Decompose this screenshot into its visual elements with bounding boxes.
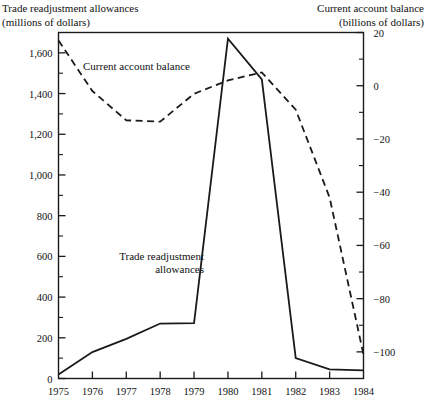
series-line-current-account-balance [59,40,364,354]
left-axis-tick-label: 200 [37,332,53,343]
left-axis-tick-label: 800 [37,210,53,221]
right-axis-tick-label: 0 [374,80,379,91]
left-axis-tick-label: 1,200 [29,129,53,140]
plot-frame-rect [59,33,364,379]
left-axis-tick-label: 1,000 [29,169,53,180]
x-axis-tick-label: 1984 [353,386,374,397]
left-axis-tick-label: 1,600 [29,47,53,58]
left-axis-tick-label: 0 [47,373,52,384]
x-axis-tick-label: 1976 [82,386,103,397]
right-axis-tick-label: −40 [374,187,390,198]
data-series-group [59,39,364,375]
left-axis-tick-label: 600 [37,251,53,262]
plot-area [0,0,426,405]
chart-figure: Trade readjustment allowances (millions … [0,0,426,405]
x-axis-tick-label: 1981 [251,386,272,397]
left-axis-tick-label: 400 [37,292,53,303]
x-axis-tick-label: 1982 [285,386,306,397]
x-axis-tick-label: 1979 [184,386,205,397]
x-axis-tick-label: 1980 [217,386,238,397]
plot-frame [59,33,364,379]
right-axis-tick-label: 20 [374,27,385,38]
x-axis-tick-label: 1983 [319,386,340,397]
bottom-axis-ticks [92,372,329,379]
x-axis-tick-label: 1975 [48,386,69,397]
left-axis-ticks [59,53,66,379]
left-axis-tick-label: 1,400 [29,88,53,99]
right-axis-tick-label: −80 [374,293,390,304]
right-axis-tick-label: −100 [374,346,396,357]
x-axis-tick-label: 1977 [116,386,137,397]
series-line-trade-readjustment-allowances [59,39,364,375]
right-axis-tick-label: −60 [374,240,390,251]
x-axis-tick-label: 1978 [150,386,171,397]
right-axis-ticks [357,33,364,352]
right-axis-tick-label: −20 [374,133,390,144]
